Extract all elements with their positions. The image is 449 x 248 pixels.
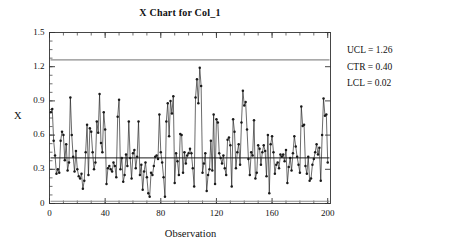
minor-tick-marks: [50, 33, 328, 204]
series-polyline: [51, 68, 328, 197]
major-tick-marks: [50, 33, 331, 204]
annotation-ctr: CTR = 0.40: [347, 59, 392, 76]
chart-figure: X Chart for Col_1 X Observation 04080120…: [0, 0, 449, 248]
control-limit-annotations: UCL = 1.26 CTR = 0.40 LCL = 0.02: [347, 42, 392, 92]
plot-frame: [50, 33, 331, 204]
annotation-lcl: LCL = 0.02: [347, 75, 392, 92]
annotation-ucl: UCL = 1.26: [347, 42, 392, 59]
plot-canvas: [0, 0, 449, 248]
